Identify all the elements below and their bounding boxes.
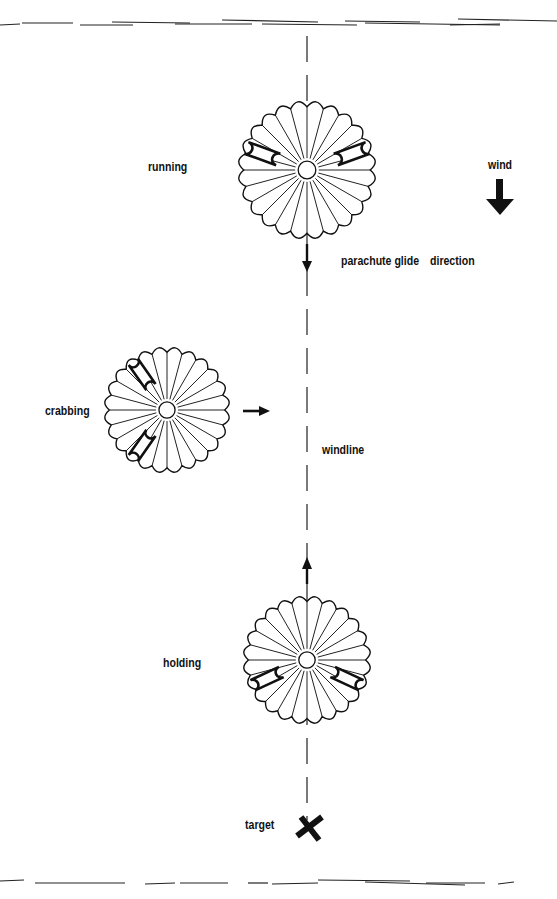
- target-x-icon: [297, 817, 322, 840]
- label-glide: parachute glide: [341, 254, 419, 268]
- label-crabbing: crabbing: [45, 404, 90, 418]
- parachute-running: [239, 102, 375, 238]
- holding-arrow-icon: [302, 557, 312, 584]
- crab-arrow-icon: [243, 406, 270, 416]
- label-wind: wind: [488, 158, 512, 172]
- label-direction: direction: [430, 254, 475, 268]
- top-border: [0, 19, 557, 25]
- parachute-crabbing: [105, 348, 229, 472]
- label-windline: windline: [322, 443, 364, 457]
- diagram-artwork: [0, 0, 557, 899]
- label-holding: holding: [163, 656, 201, 670]
- windline-diagram: running wind parachute glide direction c…: [0, 0, 557, 899]
- parachute-holding: [244, 597, 370, 723]
- wind-arrow-icon: [486, 179, 514, 215]
- bottom-border: [0, 880, 514, 885]
- label-running: running: [148, 160, 187, 174]
- glide-arrow-icon: [302, 244, 312, 272]
- label-target: target: [245, 818, 274, 832]
